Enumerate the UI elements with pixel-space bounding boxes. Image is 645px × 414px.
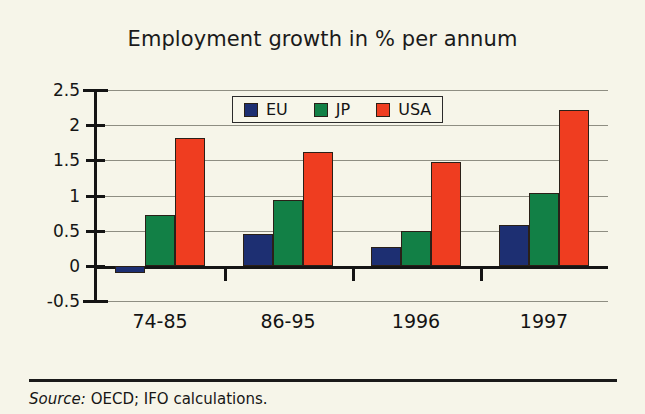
y-axis-labels: 2.521.510.50-0.5: [16, 0, 80, 414]
x-axis-tick: [352, 267, 355, 281]
y-axis-tick: [86, 124, 105, 127]
x-axis-label-86-95: 86-95: [260, 310, 315, 332]
legend-item-jp: JP: [314, 102, 350, 118]
x-axis-label-74-85: 74-85: [132, 310, 187, 332]
footer-divider: [29, 379, 617, 382]
x-axis-label-1997: 1997: [520, 310, 568, 332]
y-axis-tick-label: 2.5: [24, 80, 80, 100]
source-note: Source: OECD; IFO calculations.: [29, 390, 267, 408]
bar-jp-1996: [401, 231, 431, 266]
legend-item-usa: USA: [376, 102, 431, 118]
bar-eu-1996: [371, 247, 401, 266]
y-axis-tick-label: 1.5: [24, 150, 80, 170]
gridline: [96, 301, 608, 302]
bar-usa-1997: [559, 110, 589, 266]
legend-item-eu: EU: [244, 102, 288, 118]
gridline: [96, 90, 608, 91]
source-label: Source:: [29, 390, 86, 408]
bar-usa-86-95: [303, 152, 333, 266]
chart-figure: Employment growth in % per annum 2.521.5…: [0, 0, 645, 414]
y-axis-tick: [86, 230, 105, 233]
gridline: [96, 160, 608, 161]
bar-eu-86-95: [243, 234, 273, 266]
y-axis-tick-label: 1: [24, 186, 80, 206]
legend-swatch-jp-icon: [314, 103, 328, 117]
y-axis-tick: [86, 159, 105, 162]
y-axis-tick-label: 2: [24, 115, 80, 135]
legend-label-eu: EU: [266, 102, 288, 118]
source-value: OECD; IFO calculations.: [86, 390, 268, 408]
y-axis-tick: [86, 195, 105, 198]
bar-usa-74-85: [175, 138, 205, 266]
legend-swatch-eu-icon: [244, 103, 258, 117]
x-axis-tick: [224, 267, 227, 281]
bar-eu-1997: [499, 225, 529, 266]
legend-swatch-usa-icon: [376, 103, 390, 117]
y-axis-tick-label: 0: [24, 256, 80, 276]
gridline: [96, 125, 608, 126]
bar-usa-1996: [431, 162, 461, 266]
bar-jp-1997: [529, 193, 559, 266]
y-axis-tick-label: -0.5: [24, 291, 80, 311]
y-axis-tick: [83, 89, 108, 92]
chart-title: Employment growth in % per annum: [0, 27, 645, 51]
legend-label-jp: JP: [336, 102, 350, 118]
legend-label-usa: USA: [398, 102, 431, 118]
x-axis-tick: [480, 267, 483, 281]
bar-jp-86-95: [273, 200, 303, 266]
chart-legend: EUJPUSA: [232, 96, 443, 123]
x-axis-label-1996: 1996: [392, 310, 440, 332]
y-axis-tick: [86, 265, 105, 268]
bar-eu-74-85: [115, 266, 145, 273]
y-axis-tick-label: 0.5: [24, 221, 80, 241]
bar-jp-74-85: [145, 215, 175, 266]
y-axis-tick: [83, 300, 108, 303]
